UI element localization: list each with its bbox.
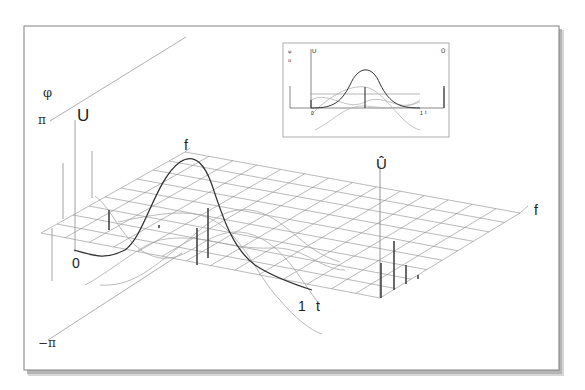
diagram-canvas: φ π −π U f Û f 0 1 t φ π U Û 0 1 — [0, 0, 585, 390]
inset-t-origin-label: 0 — [311, 110, 314, 116]
inset-phi-label: φ — [288, 48, 292, 55]
inset-t-end-label: 1 — [420, 110, 423, 116]
pi-top-label: π — [38, 113, 46, 127]
u-axis-label: U — [77, 106, 89, 125]
inset-2d-view: φ π U Û 0 1 t — [283, 43, 449, 137]
t-origin-label: 0 — [72, 255, 80, 271]
t-axis-label: t — [316, 298, 320, 314]
inset-u-label: U — [312, 48, 316, 54]
pi-bottom-label: −π — [38, 336, 56, 350]
inset-u-hat-label: Û — [441, 48, 445, 54]
u-hat-axis-label: Û — [376, 155, 387, 172]
phi-axis-label: φ — [43, 85, 52, 100]
f-axis-right-label: f — [534, 202, 538, 218]
t-end-label: 1 — [298, 298, 306, 314]
f-axis-back-label: f — [184, 137, 188, 153]
